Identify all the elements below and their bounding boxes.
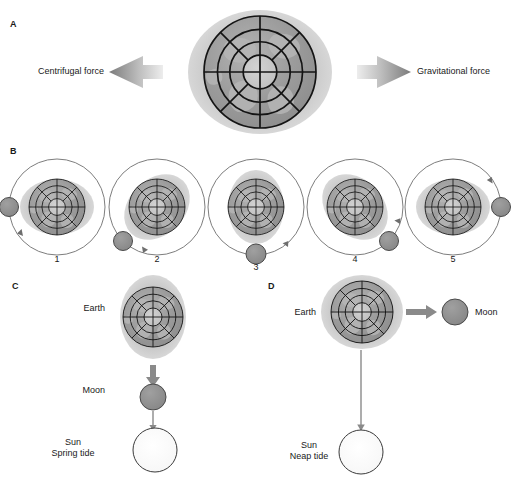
orbit-direction-arrow — [487, 177, 493, 183]
panel-c-graphic — [120, 275, 186, 472]
moon — [114, 232, 133, 251]
earth — [29, 179, 85, 235]
panel-c-moon — [140, 384, 166, 410]
panel-c-sun-label: Sun — [36, 437, 110, 448]
panel-a-graphic — [109, 10, 411, 134]
moon — [0, 198, 19, 217]
panel-d-letter: D — [268, 281, 275, 291]
panel-c-earth — [123, 287, 183, 347]
panel-b-step-4 — [307, 159, 403, 255]
earth — [327, 179, 383, 235]
tidal-forces-figure: A Centrifugal force Gravitational force … — [0, 0, 511, 481]
moon — [246, 244, 266, 264]
panel-c-earth-label: Earth — [45, 303, 105, 314]
panel-d-earth — [331, 281, 393, 343]
panel-b-step-5 — [405, 159, 511, 255]
panel-c-sun — [133, 428, 177, 472]
panel-b-step-1 — [0, 159, 105, 255]
moon — [380, 232, 399, 251]
panel-a-letter: A — [10, 19, 17, 29]
panel-d-sun-label: Sun — [281, 440, 337, 451]
panel-d-earth-to-moon-arrow — [406, 305, 437, 319]
orbit-direction-arrow — [394, 218, 400, 224]
panel-b-step-1-label: 1 — [47, 254, 67, 264]
panel-b-step-2 — [109, 159, 205, 255]
panel-b-step-3-label: 3 — [246, 262, 266, 272]
earth — [129, 179, 185, 235]
panel-b-step-4-label: 4 — [345, 254, 365, 264]
panel-c-letter: C — [12, 281, 19, 291]
panel-b-step-3 — [208, 159, 304, 264]
earth — [228, 179, 284, 235]
panel-d-earth-to-sun-arrow — [357, 350, 365, 431]
centrifugal-force-label: Centrifugal force — [18, 66, 104, 77]
panel-d-neap-tide-label: Neap tide — [281, 451, 337, 462]
panel-d-sun — [339, 430, 383, 474]
orbit-direction-arrow — [142, 247, 148, 253]
gravitational-force-label: Gravitational force — [417, 66, 490, 77]
panel-d-moon — [442, 299, 468, 325]
centrifugal-force-arrow — [109, 56, 163, 88]
earth — [425, 179, 481, 235]
panel-a-earth — [204, 16, 316, 128]
gravitational-force-arrow — [357, 56, 411, 88]
panel-d-earth-label: Earth — [258, 307, 316, 318]
panel-b-step-2-label: 2 — [147, 254, 167, 264]
panel-b-graphic — [0, 159, 511, 264]
panel-b-step-5-label: 5 — [443, 254, 463, 264]
panel-b-letter: B — [10, 146, 17, 156]
panel-c-moon-label: Moon — [45, 385, 105, 396]
moon — [492, 198, 511, 217]
panel-d-graphic — [321, 275, 468, 474]
panel-d-moon-label: Moon — [475, 307, 498, 318]
panel-c-spring-tide-label: Spring tide — [36, 448, 110, 459]
